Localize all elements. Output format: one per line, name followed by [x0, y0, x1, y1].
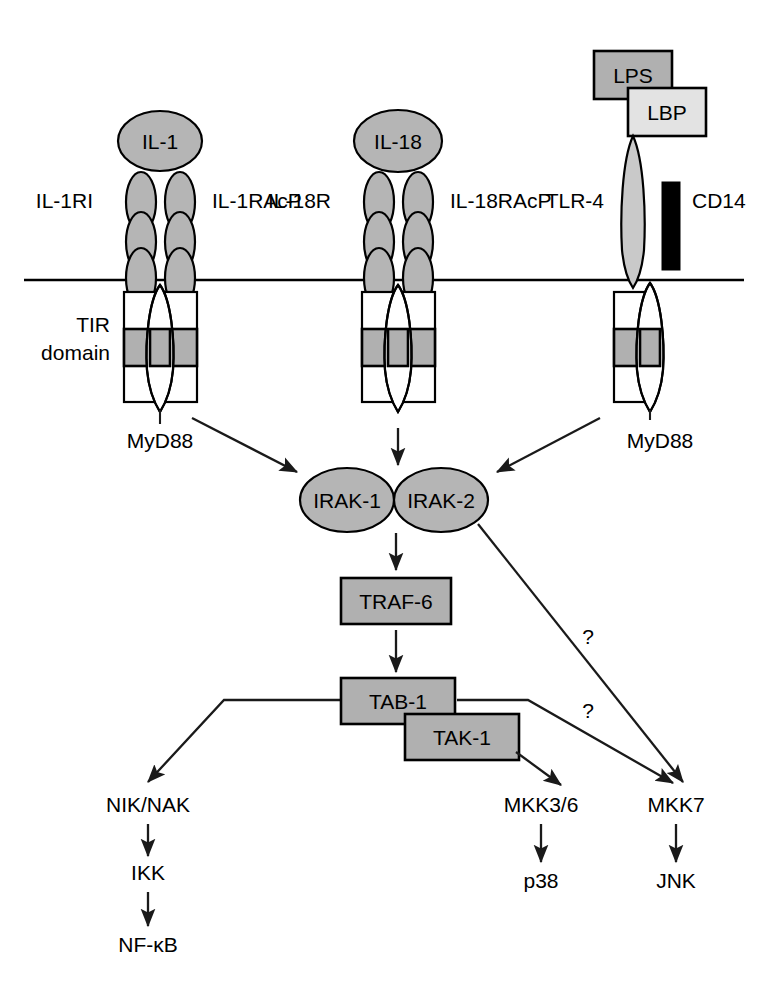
myd88-right-core	[640, 329, 660, 366]
myd88-middle-core	[388, 329, 408, 366]
edge-myd88right-to-irak	[497, 418, 600, 472]
receptor-complex-tlr4: LPS LBP TLR-4 CD14 MyD88	[546, 51, 746, 452]
receptor-complex-il18: IL-18R IL-18RAcP IL-18	[268, 110, 552, 412]
effector-chain-p38: MKK3/6 p38	[504, 793, 579, 892]
edge-tak1-to-mkk36	[516, 752, 561, 785]
pathway-diagram: IL-1RI IL-1RAcP IL-1 MyD88 TIR domain	[0, 0, 760, 991]
label-tlr4: TLR-4	[546, 189, 605, 212]
label-mkk36: MKK3/6	[504, 793, 579, 816]
label-il1ri: IL-1RI	[36, 189, 93, 212]
cd14-bar	[662, 182, 680, 270]
effector-chain-jnk: MKK7 JNK	[647, 793, 704, 892]
label-tab1: TAB-1	[369, 690, 427, 713]
edges-to-irak	[192, 418, 600, 472]
label-myd88-left: MyD88	[127, 429, 194, 452]
irak-complex: IRAK-1 IRAK-2	[300, 468, 488, 532]
label-tir-line2: domain	[41, 341, 110, 364]
label-irak2: IRAK-2	[407, 489, 475, 512]
label-jnk: JNK	[656, 869, 696, 892]
label-il1: IL-1	[142, 130, 178, 153]
label-cd14: CD14	[692, 189, 746, 212]
label-nik-nak: NIK/NAK	[106, 793, 190, 816]
receptor-complex-il1: IL-1RI IL-1RAcP IL-1 MyD88 TIR domain	[36, 111, 302, 452]
label-il18racp: IL-18RAcP	[450, 189, 552, 212]
annotation-question-upper: ?	[582, 625, 594, 648]
label-myd88-right: MyD88	[627, 429, 694, 452]
label-lbp: LBP	[647, 101, 687, 124]
label-tir-line1: TIR	[76, 313, 110, 336]
effector-chain-nfkb: NIK/NAK IKK NF-κB	[106, 793, 190, 956]
tab1-tak1-complex: TAB-1 TAK-1	[148, 678, 673, 783]
label-il18r: IL-18R	[268, 189, 331, 212]
label-tak1: TAK-1	[433, 726, 491, 749]
myd88-left-core	[150, 329, 170, 366]
label-irak1: IRAK-1	[313, 489, 381, 512]
edge-myd88left-to-irak	[192, 418, 297, 472]
label-mkk7: MKK7	[647, 793, 704, 816]
traf6-node: TRAF-6	[341, 578, 451, 624]
label-il18: IL-18	[374, 130, 422, 153]
label-lps: LPS	[613, 64, 653, 87]
label-p38: p38	[523, 869, 558, 892]
pathway-canvas: IL-1RI IL-1RAcP IL-1 MyD88 TIR domain	[0, 0, 760, 991]
tlr4-ectodomain	[621, 136, 644, 288]
label-ikk: IKK	[131, 861, 165, 884]
label-traf6: TRAF-6	[359, 590, 433, 613]
label-nfkb: NF-κB	[118, 933, 178, 956]
annotation-question-lower: ?	[582, 699, 594, 722]
edge-tab1-to-niknak	[148, 700, 340, 782]
